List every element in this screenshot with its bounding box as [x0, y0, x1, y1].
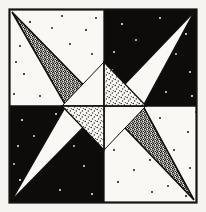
artwork-canvas: [0, 0, 206, 212]
pinwheel-star-drawing: [0, 0, 206, 212]
